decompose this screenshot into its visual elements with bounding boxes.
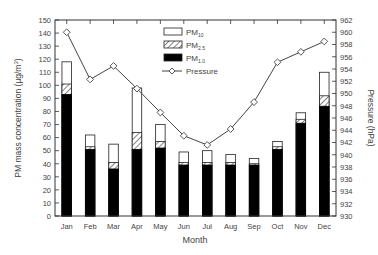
- x-tick-label: Apr: [131, 222, 143, 231]
- pressure-marker-diamond: [274, 59, 281, 66]
- bar-pm1: [320, 106, 330, 216]
- legend-label: PM2.5: [186, 41, 205, 51]
- y-tick-label: 110: [39, 68, 51, 77]
- y-tick-label: 80: [43, 107, 51, 116]
- legend-label: PM10: [186, 28, 204, 38]
- legend-label: PM1.0: [186, 54, 205, 64]
- pressure-marker-diamond: [321, 38, 328, 45]
- bar-pm1: [249, 165, 259, 216]
- legend-swatch-hatched: [164, 41, 182, 48]
- y2-tick-label: 944: [340, 126, 353, 135]
- pressure-marker-diamond: [297, 48, 304, 55]
- bar-pm1: [179, 165, 189, 216]
- y2-tick-label: 960: [340, 28, 353, 37]
- y2-tick-label: 942: [340, 138, 353, 147]
- y-tick-label: 140: [38, 29, 51, 38]
- left-y-axis: 0102030405060708090100110120130140150: [38, 16, 59, 221]
- y2-tick-label: 938: [340, 163, 353, 172]
- right-y-axis: 9309329349369389409429449469489509529549…: [332, 16, 353, 221]
- legend-diamond-icon: [169, 68, 175, 74]
- bar-pm1: [202, 165, 212, 216]
- y-tick-label: 120: [38, 55, 51, 64]
- bar-pm1: [156, 148, 166, 216]
- x-tick-label: Jul: [202, 222, 212, 231]
- bar-pm1: [62, 94, 71, 216]
- x-tick-label: Jun: [178, 222, 190, 231]
- bar-pm1: [226, 165, 236, 216]
- x-tick-label: Dec: [318, 222, 332, 231]
- x-tick-label: Aug: [224, 222, 237, 231]
- x-axis: JanFebMarAprMayJunJulAugSepOctNovDec: [61, 20, 332, 231]
- y-tick-label: 0: [47, 212, 51, 221]
- y2-tick-label: 930: [340, 212, 353, 221]
- x-tick-label: Jan: [61, 222, 73, 231]
- y2-tick-label: 948: [340, 102, 353, 111]
- x-axis-label: Month: [182, 235, 207, 245]
- y2-tick-label: 934: [340, 187, 353, 196]
- x-tick-label: Nov: [294, 222, 308, 231]
- y-tick-label: 40: [43, 160, 51, 169]
- y2-tick-label: 932: [340, 200, 353, 209]
- y-tick-label: 20: [43, 186, 51, 195]
- x-tick-label: Mar: [107, 222, 120, 231]
- y-tick-label: 30: [43, 173, 51, 182]
- y-tick-label: 150: [38, 16, 51, 25]
- y2-tick-label: 956: [340, 53, 353, 62]
- bar-pm1: [132, 149, 142, 216]
- y-tick-label: 10: [43, 199, 51, 208]
- y-tick-label: 70: [43, 120, 51, 129]
- bars-layer: [62, 62, 329, 216]
- y-tick-label: 60: [43, 133, 51, 142]
- y-tick-label: 130: [38, 42, 51, 51]
- y2-tick-label: 954: [340, 65, 353, 74]
- legend: PM10PM2.5PM1.0Pressure: [162, 28, 219, 76]
- x-tick-label: Sep: [247, 222, 260, 231]
- x-tick-label: May: [153, 222, 167, 231]
- y-tick-label: 100: [38, 81, 51, 90]
- y2-tick-label: 940: [340, 151, 353, 160]
- legend-label: Pressure: [186, 67, 219, 76]
- bar-pm1: [296, 123, 306, 216]
- y2-tick-label: 962: [340, 16, 353, 25]
- legend-swatch-white: [164, 28, 182, 35]
- y2-tick-label: 936: [340, 175, 353, 184]
- pressure-marker-diamond: [63, 29, 70, 36]
- left-y-axis-label: PM mass concentration (µg/m3): [13, 58, 23, 177]
- y2-tick-label: 950: [340, 89, 353, 98]
- right-y-axis-label: Pressure (hPa): [366, 89, 376, 146]
- y-tick-label: 50: [43, 146, 51, 155]
- pressure-marker-diamond: [204, 142, 211, 149]
- x-tick-label: Oct: [272, 222, 285, 231]
- y2-tick-label: 958: [340, 40, 353, 49]
- pressure-marker-diamond: [87, 76, 94, 83]
- bar-pm1: [109, 169, 119, 216]
- x-tick-label: Feb: [84, 222, 97, 231]
- y2-tick-label: 946: [340, 114, 353, 123]
- y-tick-label: 90: [43, 94, 51, 103]
- bar-pm1: [273, 149, 283, 216]
- legend-swatch-black: [164, 54, 182, 61]
- bar-pm1: [85, 149, 95, 216]
- pm-pressure-chart: 0102030405060708090100110120130140150 93…: [0, 0, 378, 255]
- y2-tick-label: 952: [340, 77, 353, 86]
